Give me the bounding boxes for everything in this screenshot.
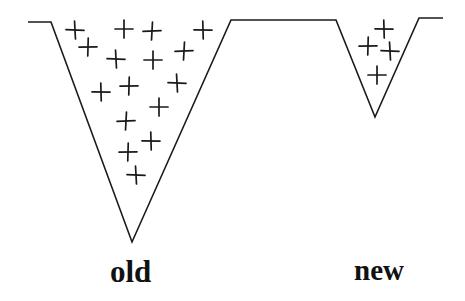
plus-icon xyxy=(144,51,162,69)
plus-icon xyxy=(117,112,135,130)
plus-icon xyxy=(66,21,84,39)
plus-icon xyxy=(127,166,145,184)
plus-icon xyxy=(120,77,138,95)
plus-icon xyxy=(107,50,125,68)
plus-icon xyxy=(194,21,212,39)
plus-icon xyxy=(375,20,393,38)
label-old: old xyxy=(110,256,151,287)
plus-group-new xyxy=(359,20,399,84)
label-new: new xyxy=(354,256,404,285)
plus-icon xyxy=(359,37,377,55)
plus-group-old xyxy=(66,20,212,184)
plus-icon xyxy=(115,20,133,38)
plus-icon xyxy=(92,83,110,101)
plus-icon xyxy=(368,66,386,84)
plus-icon xyxy=(175,42,193,60)
plus-icon xyxy=(143,22,161,40)
plus-icon xyxy=(381,42,399,60)
plus-icon xyxy=(119,143,137,161)
plus-icon xyxy=(79,38,97,56)
profile-line xyxy=(28,18,443,242)
plus-icon xyxy=(168,74,186,92)
plus-icon xyxy=(142,132,160,150)
plus-icon xyxy=(150,98,168,116)
